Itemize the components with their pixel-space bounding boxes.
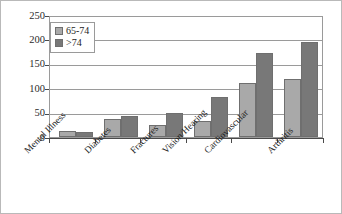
bar-group-arthritis xyxy=(284,17,320,137)
legend-label-65-74: 65-74 xyxy=(66,26,89,36)
legend-swatch-icon-over-74 xyxy=(55,39,63,47)
bar-arthritis-over-74 xyxy=(301,42,318,137)
x-tick-mark-3 xyxy=(186,139,187,143)
legend-swatch-icon-65-74 xyxy=(55,27,63,35)
bar-chart-figure: 250 200 150 100 50 0 xyxy=(0,0,342,214)
y-tick-label-50: 50 xyxy=(3,108,45,119)
bar-diabetes-over-74 xyxy=(121,116,138,137)
legend-item-over-74: >74 xyxy=(55,37,89,49)
bar-group-diabetes xyxy=(104,17,140,137)
y-tick-label-250: 250 xyxy=(3,11,45,22)
x-tick-mark-4 xyxy=(231,139,232,143)
bar-mental-illness-65-74 xyxy=(59,131,76,137)
y-tick-label-200: 200 xyxy=(3,35,45,46)
y-tick-label-150: 150 xyxy=(3,59,45,70)
bar-mental-illness-over-74 xyxy=(76,132,93,137)
legend-label-over-74: >74 xyxy=(66,38,82,48)
bar-group-fractures xyxy=(149,17,185,137)
chart-legend: 65-74 >74 xyxy=(50,22,95,53)
x-tick-mark-6 xyxy=(323,139,324,143)
legend-item-65-74: 65-74 xyxy=(55,25,89,37)
bar-cardiovascular-over-74 xyxy=(256,53,273,137)
y-axis-labels: 250 200 150 100 50 0 xyxy=(1,1,45,214)
x-tick-mark-0 xyxy=(49,139,50,143)
y-tick-label-100: 100 xyxy=(3,84,45,95)
